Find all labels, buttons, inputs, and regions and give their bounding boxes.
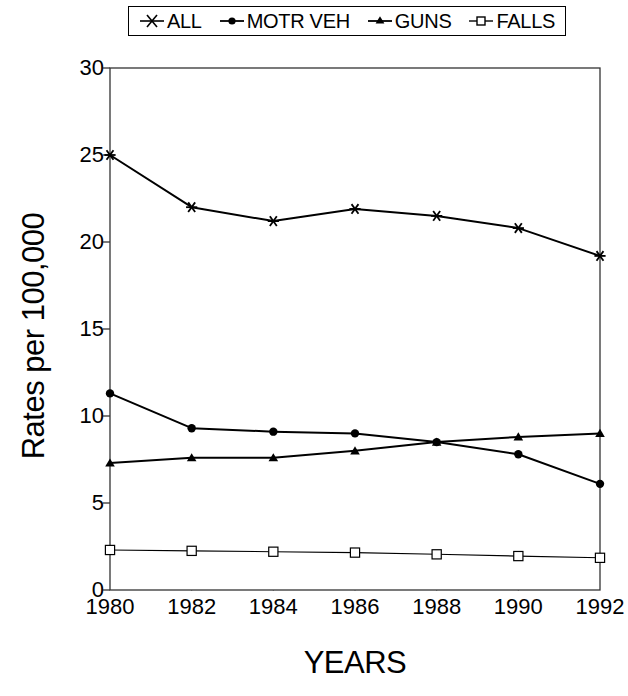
data-point-marker [351, 429, 359, 437]
series-falls [105, 545, 604, 562]
data-point-marker [106, 389, 114, 397]
data-point-marker [269, 427, 277, 435]
series-line [110, 155, 600, 256]
data-point-marker [596, 480, 604, 488]
line-chart-figure: ALL MOTR VEH GUNS [0, 0, 628, 696]
data-point-marker [269, 547, 278, 556]
data-point-marker [105, 545, 114, 554]
series-all [104, 150, 605, 261]
plot-border [110, 68, 600, 590]
series-line [110, 393, 600, 484]
data-point-marker [350, 548, 359, 557]
series-motr-veh [106, 389, 604, 488]
data-point-marker [432, 550, 441, 559]
data-point-marker [514, 551, 523, 560]
data-point-marker [595, 553, 604, 562]
data-point-marker [514, 450, 522, 458]
data-point-marker [187, 424, 195, 432]
data-point-marker [187, 546, 196, 555]
plot-area [0, 0, 628, 696]
